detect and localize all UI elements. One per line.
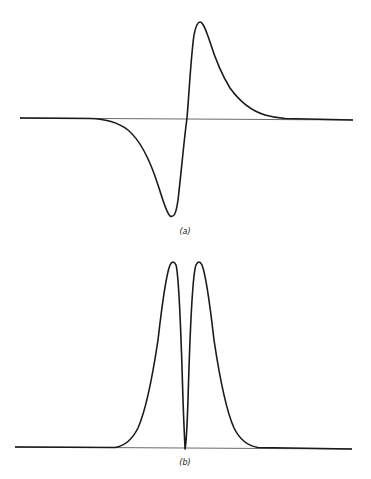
figure-canvas [0,0,371,479]
caption-b: (b) [179,458,190,467]
plot-b-curve [15,262,352,449]
caption-a: (a) [179,227,190,236]
plot-a-curve [20,22,353,216]
plot-b [15,262,352,449]
plot-a [20,22,353,216]
